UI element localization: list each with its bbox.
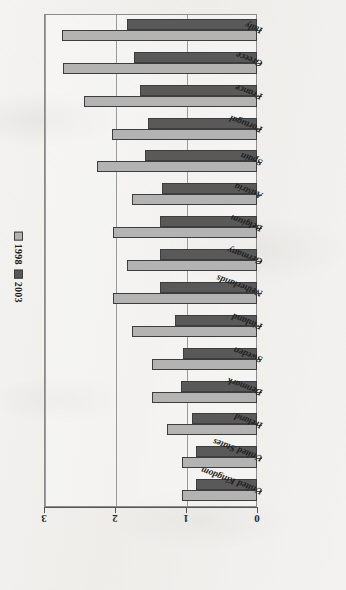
- bar-1998-france: [84, 96, 257, 107]
- tick-label-3: 3: [34, 513, 54, 525]
- tick-label-1: 1: [176, 513, 196, 525]
- bar-1998-italy: [62, 30, 257, 41]
- value-axis-line: [44, 507, 258, 508]
- bar-1998-ireland: [167, 424, 257, 435]
- legend-item-2003: 2003: [14, 270, 25, 303]
- legend-label-2003: 2003: [14, 282, 25, 303]
- legend-label-1998: 1998: [14, 244, 25, 265]
- bar-1998-denmark: [152, 392, 257, 403]
- gridline-3: [45, 15, 46, 506]
- tick-label-0: 0: [247, 513, 267, 525]
- chart-legend: 2003 1998: [6, 232, 32, 303]
- bar-1998-greece: [63, 63, 257, 74]
- gridline-2: [116, 15, 117, 506]
- bar-1998-netherlands: [113, 293, 257, 304]
- bar-1998-spain: [97, 161, 257, 172]
- bar-1998-united-kingdom: [182, 490, 257, 501]
- bar-1998-united-states: [182, 457, 257, 468]
- legend-swatch-1998: [15, 232, 24, 241]
- legend-item-1998: 1998: [14, 232, 25, 265]
- bar-1998-finland: [132, 326, 257, 337]
- tick-label-2: 2: [105, 513, 125, 525]
- bar-1998-sweden: [152, 359, 257, 370]
- bar-2003-italy: [127, 19, 257, 30]
- legend-swatch-2003: [15, 270, 24, 279]
- bar-1998-portugal: [112, 129, 257, 140]
- bar-1998-austria: [132, 194, 257, 205]
- bar-1998-germany: [127, 260, 257, 271]
- bar-1998-belgium: [113, 227, 257, 238]
